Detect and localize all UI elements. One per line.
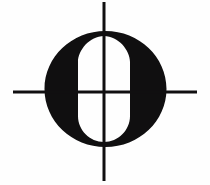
- crosshair-o-logo-icon: [0, 0, 210, 185]
- logo-canvas: Crosshair O emblem: [0, 0, 210, 185]
- crosshair-horizontal-line: [13, 91, 197, 94]
